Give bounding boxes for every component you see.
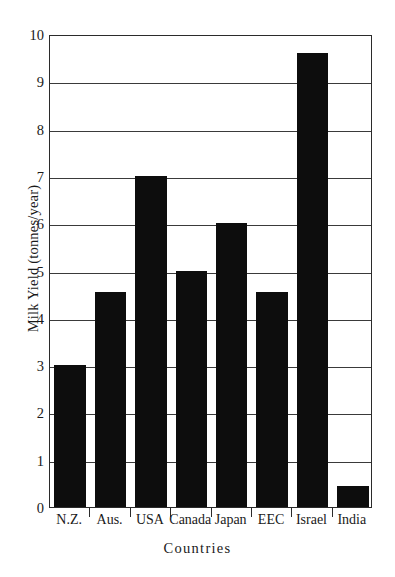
y-tick-label: 7 — [16, 168, 44, 185]
x-tick-label: Japan — [215, 512, 247, 528]
y-tick-label: 10 — [16, 27, 44, 44]
x-tick-label: Israel — [296, 512, 327, 528]
bar-india — [337, 486, 368, 507]
x-tick — [332, 508, 333, 517]
bar-nz — [54, 365, 85, 507]
x-tick-label: N.Z. — [56, 512, 82, 528]
y-tick-label: 9 — [16, 74, 44, 91]
x-axis-title: Countries — [0, 540, 395, 557]
x-tick-label: Aus. — [97, 512, 123, 528]
bar-israel — [297, 53, 328, 507]
y-tick-label: 4 — [16, 310, 44, 327]
y-tick-label: 1 — [16, 452, 44, 469]
y-tick-label: 8 — [16, 121, 44, 138]
plot-area — [49, 35, 372, 508]
y-tick-label: 2 — [16, 405, 44, 422]
y-tick-label: 5 — [16, 263, 44, 280]
bar-japan — [216, 223, 247, 507]
bar-usa — [135, 176, 166, 507]
x-tick-label: India — [337, 512, 366, 528]
y-tick-label: 6 — [16, 216, 44, 233]
x-tick-label: Canada — [169, 512, 211, 528]
bar-canada — [176, 271, 207, 508]
x-tick — [291, 508, 292, 517]
x-tick-label: EEC — [258, 512, 284, 528]
bar-chart-figure: Milk Yield (tonnes/year) 012345678910 N.… — [0, 0, 395, 577]
x-tick — [130, 508, 131, 517]
y-tick-label: 0 — [16, 500, 44, 517]
y-tick-label: 3 — [16, 358, 44, 375]
bar-eec — [256, 292, 287, 507]
bar-series — [50, 36, 371, 507]
x-tick — [89, 508, 90, 517]
x-tick — [251, 508, 252, 517]
bar-aus — [95, 292, 126, 507]
x-tick-label: USA — [136, 512, 164, 528]
